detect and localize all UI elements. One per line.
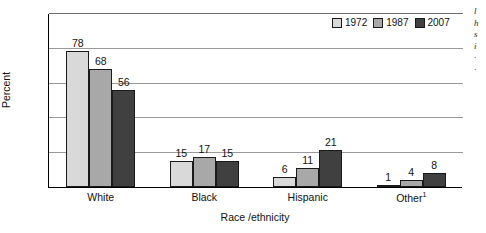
bar-white-1987: 68 (89, 69, 112, 187)
bar-value-label: 8 (431, 160, 437, 171)
legend: 197219872007 (330, 17, 452, 29)
legend-item-1987: 1987 (373, 18, 408, 28)
bar-value-label: 11 (302, 155, 313, 166)
bars: 151715 (170, 13, 239, 187)
bar-black-1972: 15 (170, 161, 193, 187)
bar-group-hispanic: 61121Hispanic (256, 13, 360, 187)
chart-figure: Percent 020406080100786856White151715Bla… (0, 0, 486, 233)
legend-item-1972: 1972 (332, 18, 367, 28)
bar-group-white: 786856White (49, 13, 153, 187)
bar-other-1972: 1 (377, 185, 400, 187)
bar-other-1987: 4 (400, 180, 423, 187)
bar-value-label: 15 (221, 148, 233, 159)
bars: 61121 (273, 13, 342, 187)
bar-white-1972: 78 (66, 51, 89, 187)
bar-value-label: 78 (72, 38, 84, 49)
y-axis-title-wrapper: Percent (0, 58, 13, 128)
legend-label: 1987 (386, 18, 408, 28)
y-axis-title: Percent (0, 55, 12, 125)
x-axis-title: Race /ethnicity (48, 211, 462, 223)
plot-area: 020406080100786856White151715Black61121H… (48, 14, 462, 188)
bar-value-label: 6 (282, 164, 288, 175)
x-axis-category-label: Other1 (360, 191, 464, 204)
bar-value-label: 1 (385, 172, 391, 183)
bar-value-label: 68 (95, 56, 107, 67)
x-axis-category-label: Black (153, 191, 257, 203)
x-axis-category-label: Hispanic (256, 191, 360, 203)
bar-hispanic-2007: 21 (319, 150, 342, 187)
x-axis-category-label: White (49, 191, 153, 203)
bar-group-black: 151715Black (153, 13, 257, 187)
bar-group-other: 148Other1 (360, 13, 464, 187)
legend-swatch-1972 (332, 18, 342, 28)
legend-label: 1972 (345, 18, 367, 28)
bar-hispanic-1987: 11 (296, 168, 319, 187)
bar-other-2007: 8 (423, 173, 446, 187)
bar-black-1987: 17 (193, 157, 216, 187)
legend-swatch-1987 (373, 18, 383, 28)
adjacent-column-text-sliver: lhsi·· (474, 6, 486, 126)
bar-black-2007: 15 (216, 161, 239, 187)
bar-value-label: 21 (325, 137, 337, 148)
bar-value-label: 15 (175, 148, 187, 159)
legend-item-2007: 2007 (415, 18, 450, 28)
bar-white-2007: 56 (112, 90, 135, 187)
bar-value-label: 17 (198, 144, 210, 155)
bar-value-label: 56 (118, 77, 130, 88)
legend-label: 2007 (428, 18, 450, 28)
bar-hispanic-1972: 6 (273, 177, 296, 187)
footnote-marker: 1 (422, 191, 426, 198)
bars: 148 (377, 13, 446, 187)
bars: 786856 (66, 13, 135, 187)
legend-swatch-2007 (415, 18, 425, 28)
bar-value-label: 4 (408, 167, 414, 178)
